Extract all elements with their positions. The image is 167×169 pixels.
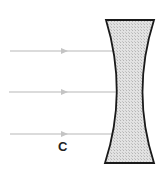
ray-2 [9,89,121,95]
point-c-label: C [58,139,67,154]
diagram-graphic [0,0,167,169]
ray-3 [10,131,115,137]
ray-1 [10,48,117,54]
lens-diagram: C [0,0,167,169]
